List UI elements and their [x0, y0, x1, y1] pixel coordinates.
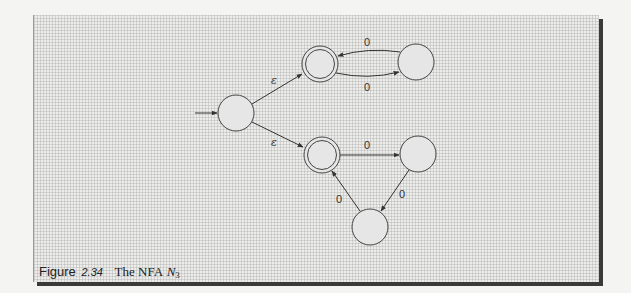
edge-q0-q1: [252, 74, 302, 104]
caption-label: Figure: [39, 264, 76, 279]
label-q4-q5: 0: [399, 188, 405, 200]
label-eps-upper: ε: [271, 74, 277, 87]
label-q5-q3: 0: [336, 193, 342, 205]
label-q1-q2: 0: [364, 81, 370, 93]
nfa-diagram: ε ε 0 0 0 0 0: [0, 0, 631, 293]
state-q5: [352, 209, 388, 245]
state-q0: [218, 95, 254, 131]
state-q2: [398, 44, 434, 80]
caption-math-subscript: 3: [175, 270, 180, 280]
label-q3-q4: 0: [364, 139, 370, 151]
figure-caption: Figure 2.34 The NFA N3: [39, 264, 180, 280]
state-q1-accepting: [302, 46, 338, 82]
state-q4: [400, 136, 436, 172]
state-q3-accepting: [304, 137, 340, 173]
label-q2-q1: 0: [364, 36, 370, 48]
edge-q2-q1: [338, 50, 400, 56]
caption-title: The NFA: [115, 264, 164, 279]
edge-q5-q3: [332, 171, 360, 211]
edge-q0-q3: [252, 122, 303, 147]
caption-number: 2.34: [81, 266, 102, 278]
label-eps-lower: ε: [271, 136, 277, 149]
edge-q1-q2: [336, 72, 399, 76]
